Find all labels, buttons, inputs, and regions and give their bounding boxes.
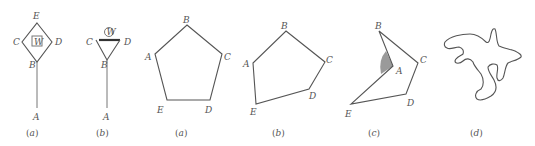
label-C: C [13,37,20,47]
label-B: B [374,21,382,31]
label-W: W [34,37,44,47]
label-A: A [395,66,403,76]
diagram-canvas: W E C D B A (a) W C D B A (b) B A C D E … [0,0,535,146]
label-A: A [242,59,250,69]
caption-b-pentagon: (b) [272,128,285,138]
label-E: E [249,107,257,117]
label-C: C [86,37,93,47]
label-E: E [156,105,164,115]
label-A: A [144,52,152,62]
figure-kite-a: W E C D B A (a) [13,11,62,138]
figure-concave-c: B A C D E (c) [344,21,427,138]
figure-pentagon-b: B A C D E (b) [242,21,333,138]
closed-curve [444,29,521,100]
label-D: D [204,105,212,115]
label-B: B [28,60,36,70]
caption-d: (d) [470,128,483,138]
pentagon-regular [155,25,222,100]
label-E: E [344,109,352,119]
triangle-sides [96,40,120,60]
label-B: B [182,15,190,25]
label-A: A [102,112,110,122]
caption-a-left: (a) [26,128,38,138]
label-B: B [280,21,288,31]
label-C: C [326,55,333,65]
figure-pentagon-a: B A C D E (a) [144,15,231,138]
label-C: C [420,55,427,65]
label-D: D [308,91,316,101]
caption-c: (c) [368,128,380,138]
label-C: C [224,52,231,62]
figure-curve-d: (d) [444,29,521,138]
label-D: D [123,37,131,47]
label-B: B [100,60,108,70]
caption-b-left: (b) [96,128,109,138]
label-D: D [54,37,62,47]
label-D: D [406,98,414,108]
label-A: A [32,112,40,122]
caption-a-pentagon: (a) [175,128,187,138]
label-E: E [32,11,40,21]
label-W: W [107,27,117,37]
figure-triangle-b: W C D B A (b) [86,27,131,138]
